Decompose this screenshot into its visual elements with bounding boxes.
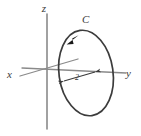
axis-line-x bbox=[20, 59, 78, 76]
axis-label-z: z bbox=[41, 2, 47, 14]
dimension-arrow bbox=[64, 72, 95, 81]
axis-label-y: y bbox=[125, 67, 131, 79]
dimension-label: 2 bbox=[75, 73, 79, 82]
curve-c-ellipse bbox=[53, 27, 118, 120]
axis-label-x: x bbox=[6, 68, 12, 80]
curve-label-c: C bbox=[82, 13, 90, 25]
diagram-canvas: z x y C 2 bbox=[0, 0, 141, 136]
figure-root: z x y C 2 bbox=[0, 0, 141, 136]
